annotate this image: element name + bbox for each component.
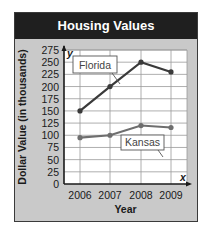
data-point xyxy=(138,123,143,128)
series-label-kansas: Kansas xyxy=(125,136,160,148)
x-tick-label: 2007 xyxy=(98,189,122,201)
data-point xyxy=(168,125,173,130)
line-chart: yx02550751001251501752002252502752006200… xyxy=(0,0,207,236)
y-axis-title: Dollar Value (in thousands) xyxy=(16,49,28,184)
x-tick-label: 2008 xyxy=(129,189,153,201)
x-axis-letter: x xyxy=(179,171,187,183)
y-axis-arrow xyxy=(62,45,67,51)
y-tick-label: 225 xyxy=(41,68,59,80)
data-point xyxy=(107,84,112,89)
y-tick-label: 125 xyxy=(41,117,59,129)
y-tick-label: 175 xyxy=(41,93,59,105)
y-tick-label: 250 xyxy=(41,56,59,68)
x-axis-title: Year xyxy=(114,203,136,215)
y-tick-label: 0 xyxy=(53,178,59,190)
data-point xyxy=(138,60,143,65)
data-point xyxy=(107,133,112,138)
y-tick-label: 200 xyxy=(41,81,59,93)
y-tick-label: 100 xyxy=(41,129,59,141)
data-point xyxy=(168,69,173,74)
data-point xyxy=(77,108,82,113)
x-axis-arrow xyxy=(186,182,192,187)
y-tick-label: 25 xyxy=(47,166,59,178)
y-tick-label: 150 xyxy=(41,105,59,117)
x-tick-label: 2009 xyxy=(159,189,183,201)
y-tick-label: 75 xyxy=(47,141,59,153)
y-tick-label: 275 xyxy=(41,44,59,56)
data-point xyxy=(77,135,82,140)
series-label-florida: Florida xyxy=(79,59,111,71)
y-tick-label: 50 xyxy=(47,154,59,166)
x-tick-label: 2006 xyxy=(68,189,92,201)
